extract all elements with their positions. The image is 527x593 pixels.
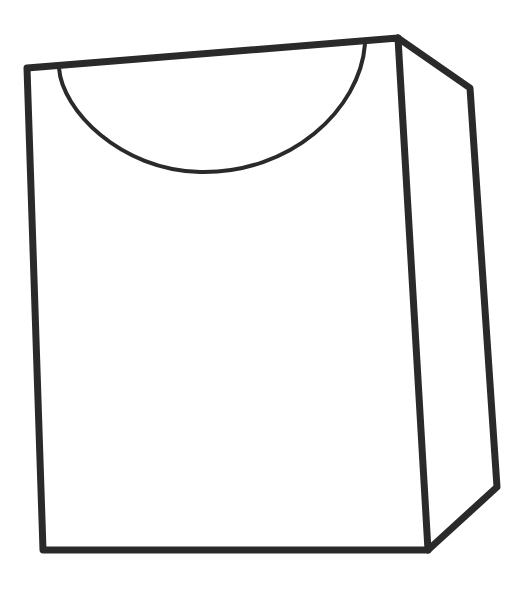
bag-drawing [0, 0, 527, 593]
background [0, 0, 527, 593]
